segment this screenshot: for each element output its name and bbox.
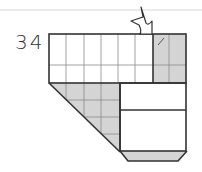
shaded-top-cells bbox=[153, 34, 186, 83]
outlined-arrow-down-right-icon bbox=[131, 7, 152, 34]
puzzle-diagram: 34 bbox=[0, 0, 202, 172]
clue-number: 34 bbox=[15, 30, 44, 54]
shaded-bottom-strip bbox=[120, 151, 187, 161]
puzzle-grid bbox=[0, 0, 202, 172]
